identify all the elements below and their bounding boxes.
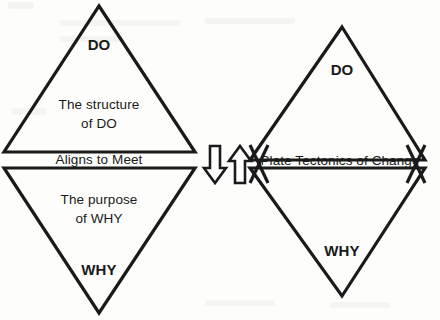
right-band-label: Plate Tectonics of Change <box>260 153 419 168</box>
right-top-heading: DO <box>331 62 354 79</box>
left-top-body-line1: The structure <box>59 97 140 112</box>
right-top-triangle <box>250 27 425 160</box>
diagram-canvas: DO The structure of DO Aligns to Meet Th… <box>0 0 440 320</box>
right-bottom-heading: WHY <box>324 243 359 260</box>
left-bottom-triangle <box>4 168 195 313</box>
down-arrow-icon <box>204 146 226 183</box>
left-top-body-line2: of DO <box>81 116 117 131</box>
up-arrow-icon <box>229 146 251 183</box>
left-top-heading: DO <box>88 37 111 54</box>
left-bottom-heading: WHY <box>81 262 116 279</box>
right-bottom-triangle <box>250 168 425 296</box>
left-band-label: Aligns to Meet <box>56 152 143 167</box>
left-bottom-body-line2: of WHY <box>75 211 122 226</box>
left-bottom-body-line1: The purpose <box>61 192 138 207</box>
